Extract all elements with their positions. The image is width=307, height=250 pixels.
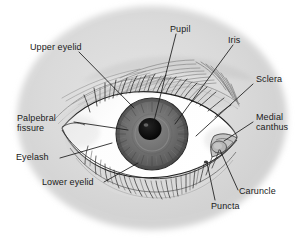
label-medial-canthus-line1: Medial	[256, 112, 283, 123]
label-eyelash: Eyelash	[16, 152, 49, 163]
label-pupil: Pupil	[170, 24, 191, 35]
label-lower-eyelid: Lower eyelid	[42, 177, 94, 188]
eye-anatomy-figure: Upper eyelid Pupil Iris Sclera Medial ca…	[0, 0, 307, 250]
label-sclera: Sclera	[256, 74, 282, 85]
pupil	[139, 118, 162, 140]
label-medial-canthus-line2: canthus	[256, 122, 288, 133]
label-iris: Iris	[228, 35, 240, 46]
label-palpebral-fissure-line2: fissure	[17, 123, 44, 134]
label-puncta: Puncta	[211, 201, 240, 212]
label-caruncle: Caruncle	[239, 186, 276, 197]
puncta	[204, 160, 208, 163]
label-palpebral-fissure-line1: Palpebral	[17, 113, 56, 124]
label-upper-eyelid: Upper eyelid	[30, 42, 82, 53]
